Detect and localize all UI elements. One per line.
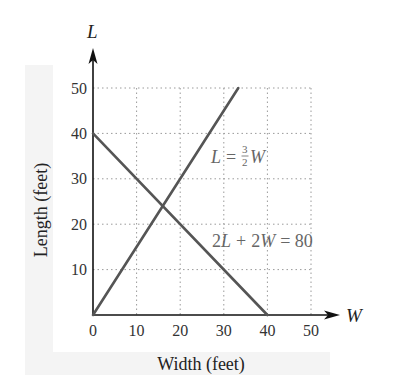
svg-text:L: L [210,147,221,167]
x-axis-title: Width (feet) [157,354,245,375]
chart: L W 50 40 30 20 10 0 10 20 30 40 50 Widt… [0,0,396,390]
svg-text:40: 40 [259,322,275,339]
svg-text:20: 20 [172,322,188,339]
svg-text:10: 10 [129,322,145,339]
x-axis-variable: W [346,305,364,326]
y-axis-title: Length (feet) [31,163,52,257]
svg-text:50: 50 [71,80,87,97]
svg-text:50: 50 [303,322,319,339]
svg-text:=: = [226,147,236,167]
x-tick-labels: 0 10 20 30 40 50 [89,322,319,339]
grid [93,88,311,315]
svg-text:10: 10 [71,261,87,278]
axes [89,48,341,320]
svg-text:40: 40 [71,125,87,142]
svg-text:20: 20 [71,216,87,233]
svg-text:W: W [250,147,267,167]
svg-text:3: 3 [242,143,248,155]
svg-text:0: 0 [89,322,97,339]
svg-text:2L+2W= 80: 2L+2W= 80 [212,231,313,251]
svg-text:30: 30 [216,322,232,339]
svg-text:2: 2 [242,156,248,168]
svg-text:30: 30 [71,170,87,187]
annotation-L-equals-three-halves-W: L = 3 2 W [210,143,267,168]
y-tick-labels: 50 40 30 20 10 [71,80,87,278]
line-L-equals-three-halves-W [93,88,238,315]
annotation-perimeter-80: 2L+2W= 80 [212,231,313,251]
y-axis-variable: L [86,21,98,42]
